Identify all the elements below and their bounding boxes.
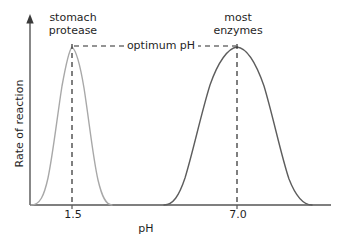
enzyme-ph-chart: Rate of reaction pH 1.5 7.0 stomach prot… [0, 0, 344, 243]
x-tick-label-1-5: 1.5 [55, 208, 91, 221]
label-most-enzymes: most enzymes [197, 11, 279, 37]
label-stomach-protease-line2: protease [32, 24, 114, 37]
label-stomach-protease: stomach protease [32, 11, 114, 37]
x-tick-label-7-0: 7.0 [220, 208, 256, 221]
y-axis [26, 14, 33, 205]
label-most-enzymes-line2: enzymes [197, 24, 279, 37]
label-most-enzymes-line1: most [197, 11, 279, 24]
curve-most-enzymes [164, 47, 312, 205]
label-stomach-protease-line1: stomach [32, 11, 114, 24]
label-optimum-ph: optimum pH [124, 39, 198, 52]
y-axis-title: Rate of reaction [13, 64, 26, 184]
x-axis-title: pH [126, 222, 166, 235]
